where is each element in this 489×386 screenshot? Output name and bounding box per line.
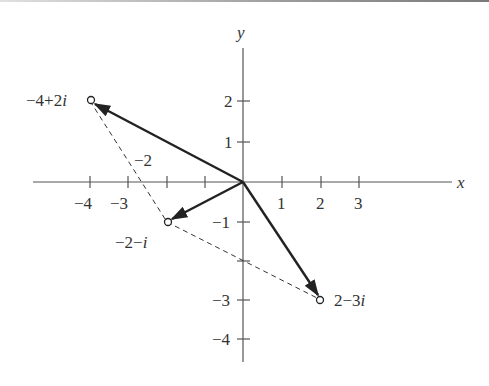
point-z1-label: −2−i <box>115 233 148 252</box>
x-tick-label: −3 <box>110 194 128 213</box>
x-tick-label: 1 <box>277 194 286 213</box>
complex-plane-diagram: y x −4 −3 −2 1 2 3 2 1 −1 −3 −4 −4+2i −2… <box>0 0 489 386</box>
dashed-segment-sum-z1 <box>90 101 167 222</box>
point-z1-marker <box>165 219 172 226</box>
x-tick-label: −4 <box>74 194 93 213</box>
x-tick-label: 3 <box>354 194 363 213</box>
y-tick-label: −3 <box>212 291 230 310</box>
x-tick-label: −2 <box>134 151 152 170</box>
vector-sum <box>95 104 243 182</box>
x-axis-label: x <box>456 173 465 192</box>
y-tick-label: 1 <box>224 133 233 152</box>
point-sum-label: −4+2i <box>26 91 67 110</box>
y-tick-label: −1 <box>212 213 230 232</box>
point-z2-label: 2−3i <box>334 291 366 310</box>
vector-z1 <box>172 182 243 219</box>
y-tick-label: −4 <box>212 330 231 349</box>
x-tick-label: 2 <box>316 194 325 213</box>
point-sum-marker <box>88 97 95 104</box>
point-z2-marker <box>317 297 324 304</box>
y-tick-label: 2 <box>224 92 233 111</box>
y-axis-label: y <box>235 23 245 42</box>
